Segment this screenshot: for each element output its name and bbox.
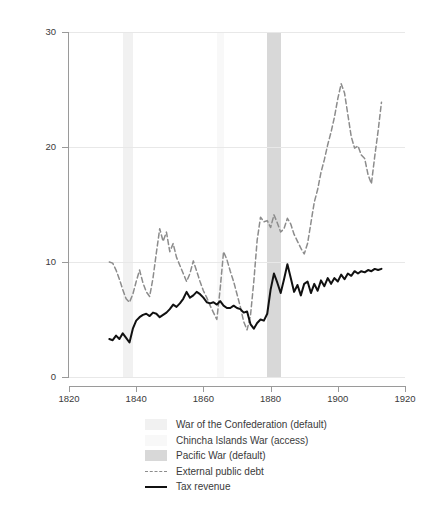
y-tick-label: 20 xyxy=(30,142,56,152)
legend-swatch-icon xyxy=(145,450,167,461)
legend-item-0: War of the Confederation (default) xyxy=(145,417,425,433)
x-tick xyxy=(405,386,406,392)
chart-legend: War of the Confederation (default)Chinch… xyxy=(145,417,425,495)
legend-item-1: Chincha Islands War (access) xyxy=(145,433,425,449)
y-tick xyxy=(62,262,69,263)
data-series-layer xyxy=(69,32,405,377)
legend-swatch-icon xyxy=(145,435,167,446)
series-line-tax-revenue xyxy=(109,264,381,342)
legend-label: Tax revenue xyxy=(176,481,230,492)
y-tick-label: 0 xyxy=(30,372,56,382)
x-axis-line xyxy=(69,386,405,387)
y-axis-line xyxy=(68,32,69,378)
legend-swatch-icon xyxy=(145,419,167,430)
x-tick xyxy=(203,386,204,392)
legend-solid-line-icon xyxy=(145,481,167,492)
gridline xyxy=(69,377,405,378)
x-tick xyxy=(136,386,137,392)
legend-label: Pacific War (default) xyxy=(176,450,266,461)
series-line-external-public-debt xyxy=(109,84,381,330)
legend-label: External public debt xyxy=(176,466,264,477)
x-tick xyxy=(69,386,70,392)
y-tick-label: 10 xyxy=(30,257,56,267)
legend-item-4: Tax revenue xyxy=(145,479,425,495)
x-tick xyxy=(338,386,339,392)
x-tick xyxy=(271,386,272,392)
y-tick xyxy=(62,377,69,378)
legend-item-2: Pacific War (default) xyxy=(145,448,425,464)
legend-label: Chincha Islands War (access) xyxy=(176,435,308,446)
legend-line-glyph xyxy=(145,486,167,488)
legend-dashed-line-icon xyxy=(145,466,167,477)
x-tick-label: 1920 xyxy=(385,393,425,404)
y-tick-label: 30 xyxy=(30,27,56,37)
y-tick xyxy=(62,147,69,148)
x-tick-label: 1820 xyxy=(49,393,89,404)
y-tick xyxy=(62,32,69,33)
legend-line-glyph xyxy=(145,471,167,472)
chart-figure: % of GDP 0102030 18201840186018801900192… xyxy=(0,0,433,507)
x-tick-label: 1880 xyxy=(251,393,291,404)
chart-area: % of GDP 0102030 18201840186018801900192… xyxy=(0,0,433,400)
x-tick-label: 1900 xyxy=(318,393,358,404)
legend-label: War of the Confederation (default) xyxy=(176,419,327,430)
x-tick-label: 1860 xyxy=(183,393,223,404)
legend-item-3: External public debt xyxy=(145,464,425,480)
plot-region xyxy=(69,32,405,377)
x-tick-label: 1840 xyxy=(116,393,156,404)
